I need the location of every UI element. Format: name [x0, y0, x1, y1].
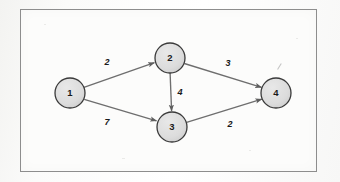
- grain-speck: [44, 24, 46, 25]
- edge-3-to-4: [187, 99, 262, 122]
- edge-1-to-3: [84, 99, 156, 121]
- edge-2-to-4: [184, 64, 261, 88]
- edge-weight-2-4: 3: [225, 59, 230, 68]
- node-label-1: 1: [67, 88, 72, 98]
- edge-weight-1-2: 2: [104, 58, 109, 67]
- node-label-4: 4: [273, 88, 278, 98]
- grain-speck: [249, 150, 251, 151]
- edge-1-to-2: [84, 63, 154, 88]
- node-label-2: 2: [167, 53, 172, 63]
- edge-weight-1-3: 7: [104, 118, 109, 127]
- grain-speck: [296, 38, 298, 39]
- graph-drawing: [0, 0, 340, 182]
- figure-screenshot: 1 2 3 4 2 7 4 3 2: [0, 0, 340, 182]
- edge-2-to-3: [170, 73, 172, 111]
- node-label-3: 3: [169, 122, 174, 132]
- edge-weight-3-4: 2: [227, 120, 232, 129]
- grain-speck: [122, 158, 125, 159]
- edge-weight-2-3: 4: [177, 88, 182, 97]
